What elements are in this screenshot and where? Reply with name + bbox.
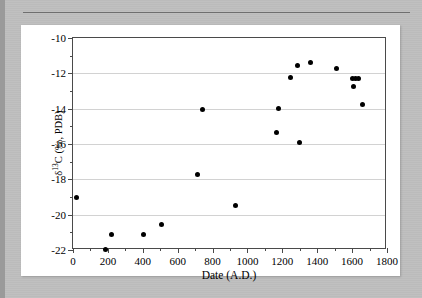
- x-axis-tick-minor: [370, 248, 371, 251]
- x-axis-tick-major: [317, 248, 318, 253]
- y-axis-tick-label: -12: [51, 68, 66, 79]
- document-page: -10-12-14-16-18-20-22 020040060080010001…: [0, 0, 422, 298]
- x-axis-tick-label: 400: [135, 256, 152, 267]
- x-axis-tick-major: [73, 248, 74, 253]
- y-axis-tick-minor: [70, 91, 73, 92]
- data-point: [308, 60, 313, 65]
- data-point: [351, 84, 356, 89]
- x-axis-tick-label: 0: [70, 256, 76, 267]
- x-axis-tick-label: 1200: [271, 256, 293, 267]
- y-axis-title-delta: δ: [53, 171, 64, 176]
- y-axis-tick-major: [68, 73, 73, 74]
- gridline: [73, 179, 385, 180]
- data-point: [195, 172, 200, 177]
- y-axis-tick-minor: [70, 126, 73, 127]
- figure-card: -10-12-14-16-18-20-22 020040060080010001…: [21, 25, 400, 276]
- x-axis-tick-label: 1600: [341, 256, 363, 267]
- data-point: [295, 63, 300, 68]
- y-axis-tick-major: [68, 38, 73, 39]
- x-axis-tick-major: [352, 248, 353, 253]
- data-point: [274, 130, 279, 135]
- gridline: [73, 109, 385, 110]
- data-point: [297, 140, 302, 145]
- x-axis-tick-minor: [90, 248, 91, 251]
- gridline: [73, 215, 385, 216]
- scatter-plot-frame: -10-12-14-16-18-20-22 020040060080010001…: [72, 37, 386, 249]
- x-axis-tick-major: [108, 248, 109, 253]
- y-axis-tick-label: -10: [51, 33, 66, 44]
- y-axis-tick-major: [68, 144, 73, 145]
- x-axis-tick-major: [178, 248, 179, 253]
- x-axis-tick-major: [143, 248, 144, 253]
- x-axis-tick-minor: [265, 248, 266, 251]
- gridline: [73, 144, 385, 145]
- y-axis-title-superscript: 13: [51, 163, 60, 171]
- x-axis-tick-minor: [125, 248, 126, 251]
- data-point: [233, 203, 238, 208]
- y-axis-tick-minor: [70, 197, 73, 198]
- x-axis-tick-label: 800: [204, 256, 221, 267]
- x-axis-tick-minor: [300, 248, 301, 251]
- data-point: [74, 195, 79, 200]
- x-axis-tick-major: [387, 248, 388, 253]
- y-axis-tick-major: [68, 215, 73, 216]
- x-axis-tick-label: 1000: [236, 256, 258, 267]
- x-axis-tick-minor: [195, 248, 196, 251]
- x-axis-tick-major: [247, 248, 248, 253]
- y-axis-title: δ13C (‰, PDB): [54, 110, 65, 175]
- data-point: [141, 232, 146, 237]
- data-point: [103, 247, 108, 252]
- x-axis-tick-minor: [230, 248, 231, 251]
- y-axis-tick-minor: [70, 56, 73, 57]
- gridline: [73, 73, 385, 74]
- x-axis-tick-major: [282, 248, 283, 253]
- x-axis-tick-label: 600: [169, 256, 186, 267]
- y-axis-tick-label: -20: [51, 209, 66, 220]
- x-axis-tick-label: 200: [100, 256, 117, 267]
- x-axis-title: Date (A.D.): [72, 270, 386, 282]
- page-left-margin-bar: [0, 0, 5, 298]
- y-axis-tick-major: [68, 179, 73, 180]
- data-point: [356, 76, 361, 81]
- y-axis-title-rest: C (‰, PDB): [53, 110, 64, 163]
- data-point: [159, 222, 164, 227]
- y-axis-tick-minor: [70, 162, 73, 163]
- y-axis-tick-minor: [70, 232, 73, 233]
- data-point: [334, 66, 339, 71]
- y-axis-tick-label: -22: [51, 245, 66, 256]
- data-point: [200, 107, 205, 112]
- data-point: [109, 232, 114, 237]
- x-axis-tick-minor: [160, 248, 161, 251]
- x-axis-tick-major: [213, 248, 214, 253]
- header-horizontal-rule: [23, 12, 410, 13]
- data-point: [360, 102, 365, 107]
- y-axis-tick-major: [68, 109, 73, 110]
- x-axis-tick-minor: [335, 248, 336, 251]
- x-axis-tick-label: 1800: [376, 256, 398, 267]
- data-point: [288, 75, 293, 80]
- data-point: [276, 106, 281, 111]
- x-axis-tick-label: 1400: [306, 256, 328, 267]
